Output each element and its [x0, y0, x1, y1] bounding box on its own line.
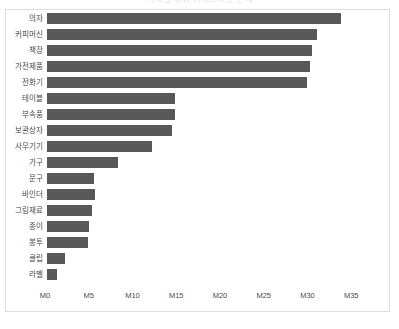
category-label: 봉투: [0, 235, 43, 251]
bar-row: 의자: [0, 11, 399, 27]
bar-row: 가전제품: [0, 59, 399, 75]
bar[interactable]: [47, 29, 317, 40]
category-label: 책장: [0, 43, 43, 59]
bar[interactable]: [47, 109, 175, 120]
category-label: 가구: [0, 155, 43, 171]
x-tick-label: M5: [84, 291, 94, 300]
bar[interactable]: [47, 13, 341, 24]
category-label: 부속품: [0, 107, 43, 123]
bar[interactable]: [47, 77, 307, 88]
bar[interactable]: [47, 269, 57, 280]
category-label: 사무기기: [0, 139, 43, 155]
bar[interactable]: [47, 173, 94, 184]
bar[interactable]: [47, 205, 92, 216]
category-label: 바인더: [0, 187, 43, 203]
bar-row: 전화기: [0, 75, 399, 91]
bar-row: 봉투: [0, 235, 399, 251]
category-label: 그림재료: [0, 203, 43, 219]
x-tick-label: M15: [169, 291, 184, 300]
category-label: 전화기: [0, 75, 43, 91]
bar[interactable]: [47, 237, 88, 248]
category-label: 클립: [0, 251, 43, 267]
bar-row: 라벨: [0, 267, 399, 283]
bar-row: 그림재료: [0, 203, 399, 219]
bar[interactable]: [47, 157, 118, 168]
category-label: 종이: [0, 219, 43, 235]
bar[interactable]: [47, 93, 175, 104]
category-label: 의자: [0, 11, 43, 27]
x-axis: M0M5M10M15M20M25M30M35: [0, 291, 399, 311]
bar[interactable]: [47, 141, 152, 152]
bar-row: 커피머신: [0, 27, 399, 43]
x-tick-label: M30: [300, 291, 315, 300]
bar-row: 바인더: [0, 187, 399, 203]
bar[interactable]: [47, 253, 65, 264]
category-label: 문구: [0, 171, 43, 187]
bar-rows: 의자커피머신책장가전제품전화기테이블부속품보관상자사무기기가구문구바인더그림재료…: [0, 11, 399, 283]
category-label: 가전제품: [0, 59, 43, 75]
chart-title: 지역별 총합 카테고리별 판매: [0, 0, 399, 3]
bar-row: 종이: [0, 219, 399, 235]
category-label: 라벨: [0, 267, 43, 283]
bar[interactable]: [47, 45, 312, 56]
category-label: 보관상자: [0, 123, 43, 139]
bar-chart: 지역별 총합 카테고리별 판매 의자커피머신책장가전제품전화기테이블부속품보관상…: [0, 0, 399, 329]
bar-row: 문구: [0, 171, 399, 187]
x-tick-label: M35: [344, 291, 359, 300]
x-tick-label: M20: [213, 291, 228, 300]
x-tick-label: M10: [125, 291, 140, 300]
bar-row: 부속품: [0, 107, 399, 123]
bar[interactable]: [47, 221, 89, 232]
bar[interactable]: [47, 189, 95, 200]
bar-row: 클립: [0, 251, 399, 267]
bar-row: 책장: [0, 43, 399, 59]
bar[interactable]: [47, 61, 310, 72]
x-tick-label: M25: [256, 291, 271, 300]
bar-row: 보관상자: [0, 123, 399, 139]
category-label: 커피머신: [0, 27, 43, 43]
bar-row: 테이블: [0, 91, 399, 107]
category-label: 테이블: [0, 91, 43, 107]
bar-row: 사무기기: [0, 139, 399, 155]
bar-row: 가구: [0, 155, 399, 171]
bar[interactable]: [47, 125, 172, 136]
x-tick-label: M0: [40, 291, 50, 300]
